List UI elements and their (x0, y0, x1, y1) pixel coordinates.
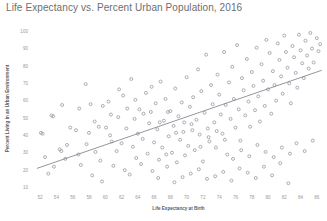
svg-text:80: 80 (23, 64, 29, 69)
y-axis-tick-labels: 102030405060708090100 (20, 29, 28, 190)
svg-text:56: 56 (70, 195, 76, 200)
svg-text:40: 40 (23, 133, 29, 138)
chart-container: Life Expectancy vs. Percent Urban Popula… (0, 0, 327, 221)
svg-text:86: 86 (314, 195, 320, 200)
svg-text:20: 20 (23, 168, 29, 173)
svg-text:76: 76 (233, 195, 239, 200)
svg-text:84: 84 (298, 195, 304, 200)
data-points-layer (39, 31, 321, 184)
svg-text:52: 52 (38, 195, 44, 200)
x-axis-title: Life Expectancy at Birth (152, 206, 205, 211)
svg-text:66: 66 (152, 195, 158, 200)
y-axis-title: Percent Living in an Urban Environment (5, 64, 10, 152)
svg-text:78: 78 (249, 195, 255, 200)
svg-text:10: 10 (23, 185, 29, 190)
svg-text:70: 70 (23, 81, 29, 86)
svg-text:60: 60 (23, 98, 29, 103)
svg-text:82: 82 (282, 195, 288, 200)
svg-text:68: 68 (168, 195, 174, 200)
x-axis-tick-labels: 525456586062646668707274767880828486 (38, 195, 320, 200)
svg-text:62: 62 (119, 195, 125, 200)
svg-text:74: 74 (217, 195, 223, 200)
svg-text:54: 54 (54, 195, 60, 200)
svg-text:50: 50 (23, 116, 29, 121)
trend-line (37, 70, 322, 168)
svg-text:64: 64 (135, 195, 141, 200)
svg-text:58: 58 (86, 195, 92, 200)
svg-text:100: 100 (20, 29, 28, 34)
svg-text:90: 90 (23, 46, 29, 51)
scatter-plot: 102030405060708090100 525456586062646668… (0, 0, 327, 221)
svg-text:60: 60 (103, 195, 109, 200)
svg-text:72: 72 (200, 195, 206, 200)
svg-text:80: 80 (265, 195, 271, 200)
svg-text:70: 70 (184, 195, 190, 200)
svg-text:30: 30 (23, 150, 29, 155)
